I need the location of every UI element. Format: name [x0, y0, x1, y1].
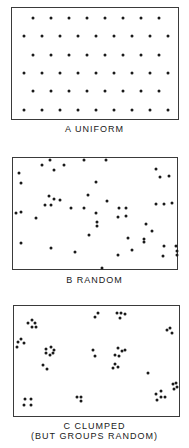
caption-uniform: A UNIFORM	[0, 124, 189, 134]
point-uniform	[41, 109, 44, 112]
point-clumped	[164, 396, 167, 399]
point-uniform	[122, 90, 125, 93]
point-clumped	[92, 349, 95, 352]
point-random	[44, 204, 47, 207]
point-clumped	[34, 322, 37, 325]
point-clumped	[35, 326, 38, 329]
point-random	[50, 204, 53, 207]
panel-uniform	[11, 7, 179, 120]
point-uniform	[32, 90, 35, 93]
point-clumped	[76, 396, 79, 399]
point-uniform	[158, 17, 161, 20]
point-uniform	[50, 54, 53, 57]
point-random	[59, 199, 62, 202]
point-random	[20, 211, 23, 214]
point-random	[48, 195, 51, 198]
point-clumped	[31, 326, 34, 329]
point-clumped	[160, 396, 163, 399]
point-random	[117, 254, 120, 257]
point-clumped	[24, 398, 27, 401]
point-random	[88, 234, 91, 237]
point-random	[63, 164, 66, 167]
point-uniform	[122, 17, 125, 20]
point-random	[131, 249, 134, 252]
point-uniform	[86, 54, 89, 57]
point-uniform	[95, 35, 98, 38]
point-uniform	[50, 17, 53, 20]
point-uniform	[104, 17, 107, 20]
point-uniform	[23, 109, 26, 112]
point-random	[105, 159, 108, 162]
point-random	[127, 237, 130, 240]
point-uniform	[95, 72, 98, 75]
point-random	[95, 181, 98, 184]
point-random	[96, 221, 99, 224]
point-random	[145, 223, 148, 226]
point-clumped	[16, 346, 19, 349]
point-random	[117, 216, 120, 219]
point-uniform	[131, 35, 134, 38]
point-uniform	[131, 72, 134, 75]
point-clumped	[42, 364, 45, 367]
point-clumped	[147, 372, 150, 375]
point-uniform	[68, 17, 71, 20]
point-clumped	[52, 352, 55, 355]
point-clumped	[20, 338, 23, 341]
panel-clumped	[13, 305, 180, 417]
point-clumped	[124, 313, 127, 316]
point-random	[125, 215, 128, 218]
point-random	[176, 250, 179, 253]
point-random	[53, 198, 56, 201]
point-uniform	[167, 35, 170, 38]
point-random	[176, 254, 179, 257]
point-random	[125, 207, 128, 210]
point-random	[41, 164, 44, 167]
point-uniform	[32, 54, 35, 57]
point-uniform	[68, 54, 71, 57]
point-random	[50, 247, 53, 250]
point-random	[159, 176, 162, 179]
point-clumped	[23, 342, 26, 345]
point-clumped	[175, 382, 178, 385]
point-uniform	[113, 109, 116, 112]
point-random	[53, 169, 56, 172]
point-clumped	[45, 348, 48, 351]
point-clumped	[80, 400, 83, 403]
point-random	[20, 242, 23, 245]
point-random	[96, 225, 99, 228]
point-uniform	[23, 72, 26, 75]
point-clumped	[27, 322, 30, 325]
point-random	[163, 203, 166, 206]
point-random	[95, 212, 98, 215]
point-uniform	[59, 109, 62, 112]
point-uniform	[77, 109, 80, 112]
point-uniform	[77, 72, 80, 75]
point-clumped	[80, 396, 83, 399]
point-random	[20, 182, 23, 185]
point-random	[143, 241, 146, 244]
point-uniform	[59, 35, 62, 38]
point-clumped	[46, 368, 49, 371]
point-random	[155, 203, 158, 206]
point-clumped	[117, 366, 120, 369]
point-random	[18, 172, 21, 175]
point-uniform	[131, 109, 134, 112]
point-uniform	[59, 72, 62, 75]
point-random	[175, 245, 178, 248]
point-random	[35, 217, 38, 220]
point-clumped	[118, 355, 121, 358]
point-clumped	[156, 399, 159, 402]
point-uniform	[95, 109, 98, 112]
point-clumped	[120, 312, 123, 315]
point-clumped	[30, 404, 33, 407]
point-uniform	[158, 90, 161, 93]
point-uniform	[23, 35, 26, 38]
point-random	[168, 175, 171, 178]
point-clumped	[94, 355, 97, 358]
point-uniform	[140, 17, 143, 20]
point-clumped	[176, 386, 179, 389]
point-random	[70, 207, 73, 210]
point-uniform	[140, 54, 143, 57]
point-uniform	[149, 72, 152, 75]
point-uniform	[113, 35, 116, 38]
